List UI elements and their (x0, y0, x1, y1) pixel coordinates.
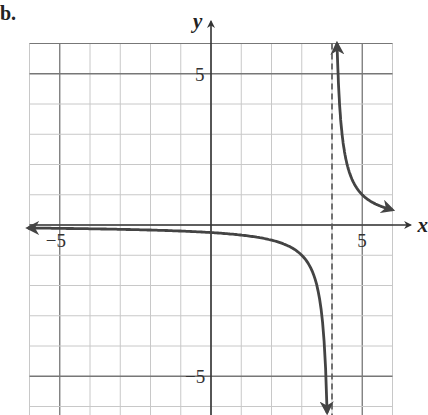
axes: xy (30, 9, 428, 415)
curve-right-branch (337, 44, 393, 210)
x-tick-label: −5 (46, 230, 66, 251)
x-axis-label: x (417, 213, 428, 237)
y-axis-label: y (190, 9, 203, 33)
function-graph: xy −555−5 (0, 0, 428, 415)
y-tick-label: −5 (185, 366, 205, 387)
y-tick-label: 5 (195, 64, 205, 85)
x-tick-label: 5 (357, 230, 367, 251)
